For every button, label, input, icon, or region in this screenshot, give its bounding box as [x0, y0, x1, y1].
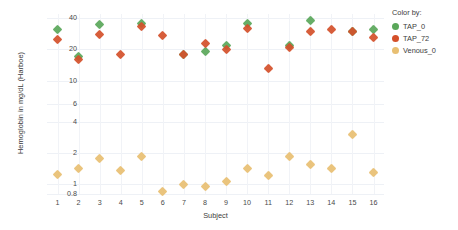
x-tick-label: 11 [259, 199, 277, 207]
x-tick-label: 13 [301, 199, 319, 207]
legend-swatch-icon [392, 47, 399, 54]
scatter-chart: Hemoglobin in mg/dL (Harboe) 40201064210… [0, 0, 458, 230]
x-tick-label: 15 [343, 199, 361, 207]
legend-item-venous_0[interactable]: Venous_0 [392, 45, 458, 56]
x-tick-label: 6 [154, 199, 172, 207]
x-tick-label: 3 [91, 199, 109, 207]
legend-swatch-icon [392, 23, 399, 30]
legend-swatch-icon [392, 35, 399, 42]
legend-item-tap_72[interactable]: TAP_72 [392, 33, 458, 44]
y-tick-label: 2 [51, 149, 77, 157]
plot-area [47, 14, 384, 194]
y-tick-label: 0.8 [51, 190, 77, 198]
x-tick-label: 12 [280, 199, 298, 207]
legend-item-label: Venous_0 [403, 46, 436, 55]
gridline-horizontal [47, 18, 384, 19]
y-tick-label: 4 [51, 118, 77, 126]
x-tick-label: 5 [133, 199, 151, 207]
x-axis-title: Subject [47, 211, 384, 220]
gridline-vertical [352, 14, 353, 194]
gridline-horizontal [47, 49, 384, 50]
legend-item-list: TAP_0TAP_72Venous_0 [392, 21, 458, 56]
y-axis-title: Hemoglobin in mg/dL (Harboe) [14, 10, 28, 196]
y-tick-label: 1 [51, 180, 77, 188]
gridline-vertical [184, 14, 185, 194]
gridline-horizontal [47, 122, 384, 123]
gridline-horizontal [47, 194, 384, 195]
y-tick-label: 20 [51, 45, 77, 53]
legend-item-label: TAP_72 [403, 34, 429, 43]
gridline-vertical [142, 14, 143, 194]
legend-item-label: TAP_0 [403, 22, 425, 31]
y-tick-label: 10 [51, 77, 77, 85]
x-tick-label: 16 [365, 199, 383, 207]
gridline-horizontal [47, 184, 384, 185]
x-tick-label: 8 [196, 199, 214, 207]
x-tick-label: 2 [70, 199, 88, 207]
gridline-horizontal [47, 104, 384, 105]
legend: Color by: TAP_0TAP_72Venous_0 [392, 8, 458, 57]
gridline-vertical [268, 14, 269, 194]
x-tick-label: 9 [217, 199, 235, 207]
x-tick-label: 7 [175, 199, 193, 207]
legend-title: Color by: [392, 8, 458, 17]
x-tick-label: 4 [112, 199, 130, 207]
y-tick-label: 6 [51, 100, 77, 108]
gridline-vertical [163, 14, 164, 194]
legend-item-tap_0[interactable]: TAP_0 [392, 21, 458, 32]
x-tick-label: 10 [238, 199, 256, 207]
x-tick-label: 14 [322, 199, 340, 207]
y-tick-label: 40 [51, 14, 77, 22]
x-tick-label: 1 [49, 199, 67, 207]
gridline-horizontal [47, 81, 384, 82]
gridline-vertical [100, 14, 101, 194]
